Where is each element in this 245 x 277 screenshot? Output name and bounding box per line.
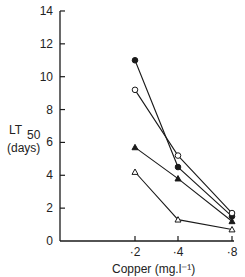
x-tick-label: ·8 (227, 245, 238, 259)
y-tick-label: 0 (46, 234, 53, 248)
series-group (132, 57, 235, 231)
y-tick-label: 2 (46, 201, 53, 215)
lt50-copper-chart: 02468101214 ·2·4·8 LT 50 (days) Copper (… (0, 0, 245, 277)
filled-circle-line (135, 60, 232, 216)
x-tick-label: ·2 (130, 245, 141, 259)
open-triangle-marker (132, 169, 138, 174)
filled-circle-marker (132, 57, 138, 63)
x-axis: ·2·4·8 (60, 236, 238, 259)
y-axis-label-units: (days) (7, 141, 40, 155)
filled-circle-marker (175, 164, 181, 170)
open-circle-marker (132, 87, 138, 93)
y-tick-label: 4 (46, 168, 53, 182)
open-circle-marker (175, 153, 181, 159)
y-axis-label-main: LT (9, 123, 23, 137)
open-circle-marker (229, 210, 235, 216)
open-triangle-line (135, 172, 232, 230)
filled-triangle-line (135, 147, 232, 221)
y-tick-label: 14 (40, 4, 54, 18)
filled-triangle-marker (132, 144, 138, 149)
y-tick-label: 6 (46, 135, 53, 149)
y-tick-label: 8 (46, 103, 53, 117)
y-axis: 02468101214 (40, 4, 65, 248)
y-tick-label: 10 (40, 70, 54, 84)
y-axis-label-sub: 50 (27, 128, 41, 142)
x-axis-label: Copper (mg.l⁻¹) (112, 262, 195, 276)
y-tick-label: 12 (40, 37, 54, 51)
open-circle-line (135, 90, 232, 213)
x-tick-label: ·4 (173, 245, 184, 259)
